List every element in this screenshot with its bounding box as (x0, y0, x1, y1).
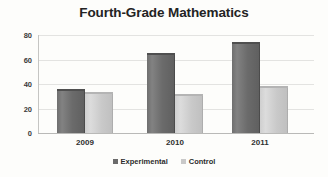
legend-label-control: Control (189, 157, 216, 166)
chart-title: Fourth-Grade Mathematics (0, 5, 328, 20)
x-axis-tick-label-2009: 2009 (40, 138, 130, 147)
y-axis-line (38, 35, 39, 134)
legend-swatch-icon (181, 159, 186, 164)
plot-area (38, 35, 314, 133)
bar-control-2011 (260, 86, 288, 133)
y-axis-tick-label: 20 (6, 105, 32, 114)
legend-item-control: Control (181, 157, 216, 166)
chart-legend: Experimental Control (0, 157, 328, 166)
bar-group-2009 (57, 35, 113, 133)
legend-swatch-icon (113, 159, 118, 164)
y-axis-tick-label: 40 (6, 80, 32, 89)
bar-experimental-2010 (147, 53, 175, 133)
bar-group-2010 (147, 35, 203, 133)
x-axis-tick-label-2010: 2010 (130, 138, 220, 147)
bar-experimental-2009 (57, 89, 85, 133)
bar-group-2011 (232, 35, 288, 133)
bar-control-2010 (175, 94, 203, 133)
bar-experimental-2011 (232, 42, 260, 133)
legend-label-experimental: Experimental (121, 157, 168, 166)
bar-control-2009 (85, 92, 113, 133)
x-axis-tick-label-2011: 2011 (215, 138, 305, 147)
legend-item-experimental: Experimental (113, 157, 168, 166)
y-axis-tick-label: 0 (6, 129, 32, 138)
y-axis-tick-label: 60 (6, 56, 32, 65)
x-axis-line (38, 133, 314, 134)
bar-chart: Fourth-Grade Mathematics 80 60 40 20 0 2… (0, 0, 328, 177)
y-axis-tick-label: 80 (6, 31, 32, 40)
